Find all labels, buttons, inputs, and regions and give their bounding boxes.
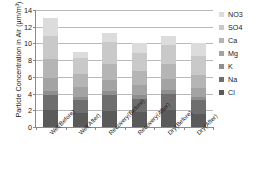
x-tick-mark: [154, 127, 155, 130]
bar-segment-ca: [161, 64, 176, 79]
bar-segment-so4: [132, 53, 147, 71]
bar-stack: [132, 43, 147, 127]
legend-item-ca[interactable]: Ca: [219, 34, 265, 47]
legend: NO3SO4CaMgKNaCl: [219, 8, 265, 99]
bar-segment-mg: [191, 88, 206, 97]
y-tick-label: 2: [28, 106, 32, 115]
legend-item-so4[interactable]: SO4: [219, 21, 265, 34]
legend-item-k[interactable]: K: [219, 60, 265, 73]
bar-segment-no3: [191, 43, 206, 56]
y-axis-title: Particle Concentration in Air (µm/m³): [14, 0, 23, 125]
bar-segment-ca: [191, 75, 206, 88]
legend-item-na[interactable]: Na: [219, 73, 265, 86]
bar-segment-mg: [43, 78, 58, 91]
bar-stack: [73, 52, 88, 127]
bar-segment-ca: [73, 74, 88, 87]
legend-label: Cl: [228, 89, 235, 96]
y-tick-label: 0: [28, 123, 32, 132]
bar-segment-so4: [161, 45, 176, 64]
bar-stack: [43, 18, 58, 127]
bar-stack: [102, 33, 117, 127]
bar-segment-na: [191, 100, 206, 113]
legend-swatch-icon: [219, 77, 224, 82]
bar-segment-ca: [43, 59, 58, 78]
legend-label: K: [228, 63, 233, 70]
bar-segment-no3: [43, 18, 58, 36]
y-tick-label: 6: [28, 72, 32, 81]
x-tick-mark: [36, 127, 37, 130]
legend-swatch-icon: [219, 12, 224, 17]
legend-label: NO3: [228, 11, 243, 18]
bar-segment-na: [43, 95, 58, 110]
legend-label: Ca: [228, 37, 237, 44]
bar-segment-so4: [43, 36, 58, 59]
bar-segment-so4: [102, 42, 117, 64]
bar-segment-ca: [132, 71, 147, 85]
bar-segment-no3: [161, 36, 176, 45]
bar-stack: [191, 43, 206, 127]
bar-segment-no3: [102, 33, 117, 42]
legend-label: Na: [228, 76, 237, 83]
y-tick-label: 12: [24, 22, 32, 31]
legend-swatch-icon: [219, 64, 224, 69]
y-tick-label: 10: [24, 39, 32, 48]
legend-label: Mg: [228, 50, 238, 57]
x-tick-mark: [213, 127, 214, 130]
chart-figure: Particle Concentration in Air (µm/m³) 02…: [0, 0, 268, 170]
x-tick-mark: [66, 127, 67, 130]
bar-segment-mg: [102, 80, 117, 91]
legend-swatch-icon: [219, 51, 224, 56]
bar-segment-na: [102, 95, 117, 111]
legend-item-no3[interactable]: NO3: [219, 8, 265, 21]
legend-swatch-icon: [219, 25, 224, 30]
y-tick-label: 8: [28, 56, 32, 65]
x-tick-mark: [184, 127, 185, 130]
bar-segment-mg: [132, 85, 147, 95]
x-tick-mark: [95, 127, 96, 130]
legend-item-mg[interactable]: Mg: [219, 47, 265, 60]
legend-swatch-icon: [219, 38, 224, 43]
bar-segment-mg: [73, 87, 88, 97]
bar-segment-so4: [191, 56, 206, 75]
legend-item-cl[interactable]: Cl: [219, 86, 265, 99]
bar-segment-so4: [73, 58, 88, 74]
y-tick-label: 4: [28, 89, 32, 98]
x-tick-mark: [125, 127, 126, 130]
bar-segment-ca: [102, 64, 117, 81]
legend-label: SO4: [228, 24, 242, 31]
bar-segment-no3: [132, 43, 147, 53]
y-tick-label: 14: [24, 6, 32, 15]
legend-swatch-icon: [219, 90, 224, 95]
bar-segment-mg: [161, 79, 176, 90]
